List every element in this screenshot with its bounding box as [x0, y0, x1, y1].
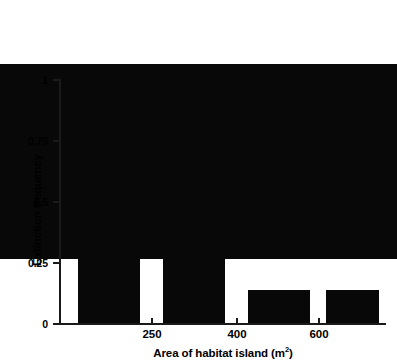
- x-axis-line: [59, 323, 386, 325]
- x-axis-tick-250: [151, 318, 153, 324]
- y-axis-tick-025: [53, 262, 60, 264]
- bar-1: [78, 152, 140, 323]
- plot-area: 1 0.75 0.5 0.25 0 250 400 600: [0, 64, 397, 363]
- y-axis-tick-0: [53, 323, 60, 325]
- bar-4: [326, 290, 379, 323]
- y-axis-tick-label-1: 1: [8, 74, 48, 86]
- y-axis-tick-075: [53, 140, 60, 142]
- x-axis-tick-400: [236, 318, 238, 324]
- y-axis-tick-05: [53, 201, 60, 203]
- x-axis-title-tail: ): [289, 347, 293, 359]
- bar-2: [163, 201, 225, 323]
- x-axis-tick-label-600: 600: [289, 328, 349, 340]
- x-axis-tick-label-400: 400: [207, 328, 267, 340]
- x-axis-title-base: Area of habitat island (m: [153, 347, 285, 359]
- y-axis-tick-1: [53, 79, 60, 81]
- x-axis-title: Area of habitat island (m2): [60, 347, 386, 359]
- y-axis-tick-label-0: 0: [8, 318, 48, 330]
- bar-3: [248, 290, 310, 323]
- x-axis-tick-600: [318, 318, 320, 324]
- x-axis-tick-label-250: 250: [122, 328, 182, 340]
- bar-chart-figure: 1 0.75 0.5 0.25 0 250 400 600 Extinction…: [0, 64, 397, 259]
- y-axis-title: Extinction frequency: [31, 110, 43, 310]
